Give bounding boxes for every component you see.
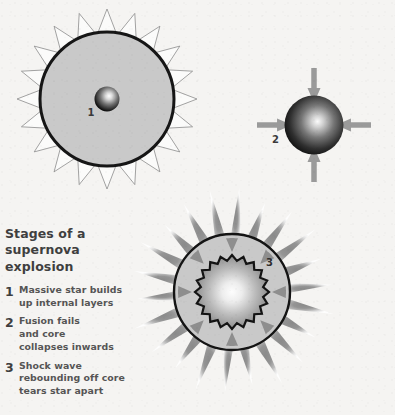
stage-list: 1 Massive star builds up internal layers…: [5, 284, 135, 398]
stage-2-core-sphere: [285, 96, 344, 155]
stage-1-number-label: 1: [88, 107, 95, 118]
stage-description: Fusion fails and core collapses inwards: [19, 315, 114, 353]
list-item: 3 Shock wave rebounding off core tears s…: [5, 360, 135, 398]
stage-description: Massive star builds up internal layers: [19, 284, 122, 310]
list-item: 1 Massive star builds up internal layers: [5, 284, 135, 310]
stage-number: 1: [5, 284, 16, 300]
corona-spike: [98, 164, 117, 189]
supernova-infographic: 1 2: [0, 0, 395, 415]
corona-spike: [98, 9, 117, 34]
page-title: Stages of a supernova explosion: [5, 226, 135, 275]
stage-2-diagram: 2: [255, 66, 373, 184]
stage-1-core: [95, 87, 120, 112]
stage-number: 2: [5, 315, 16, 331]
stage-description: Shock wave rebounding off core tears sta…: [19, 360, 125, 398]
caption-block: Stages of a supernova explosion 1 Massiv…: [5, 226, 135, 404]
stage-3-diagram: 3: [126, 186, 338, 398]
stage-2-number-label: 2: [272, 134, 279, 145]
corona-spike: [172, 90, 197, 109]
list-item: 2 Fusion fails and core collapses inward…: [5, 315, 135, 353]
stage-1-diagram: 1: [14, 8, 200, 190]
stage-number: 3: [5, 360, 16, 376]
corona-spike: [17, 90, 42, 109]
stage-3-number-label: 3: [266, 257, 273, 268]
